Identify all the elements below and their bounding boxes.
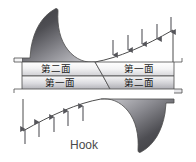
right-lower-band-label: 第二面 bbox=[124, 77, 155, 88]
right-edge-notch-lower bbox=[174, 89, 182, 93]
left-edge-notch bbox=[14, 58, 22, 62]
figure-caption: Hook bbox=[70, 138, 99, 152]
left-lower-band-label: 第一面 bbox=[45, 77, 76, 88]
left-upper-band-label: 第二面 bbox=[41, 63, 72, 74]
hook-surface-diagram: 第二面 第一面 第一面 第二面 Hook bbox=[0, 0, 196, 162]
right-upper-band-label: 第一面 bbox=[124, 63, 155, 74]
